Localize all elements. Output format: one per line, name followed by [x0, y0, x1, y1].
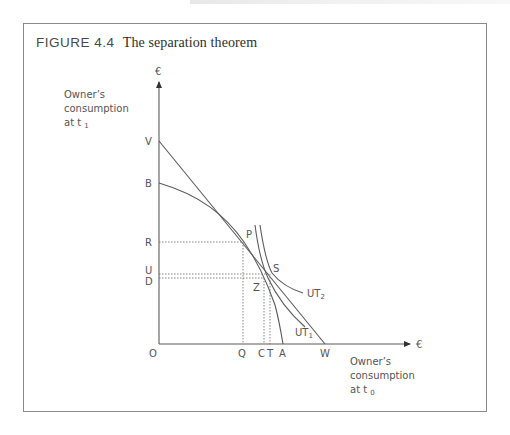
label-a: A [279, 348, 286, 359]
x-axis-title-line1: Owner’s [350, 356, 391, 367]
label-s: S [273, 263, 279, 274]
y-axis-title-subscript: 1 [84, 122, 88, 130]
label-t: T [266, 348, 274, 359]
y-axis-title-line1: Owner’s [64, 89, 105, 100]
label-ut2: UT2 [307, 288, 325, 301]
y-axis-unit: € [155, 66, 161, 77]
separation-theorem-diagram: € € Owner’s consumption at t 1 Owner’s c… [0, 0, 510, 435]
label-ut1-subscript: 1 [308, 332, 312, 340]
label-c: C [258, 348, 265, 359]
x-axis-unit: € [416, 339, 422, 350]
x-axis-title-line3: at t [350, 384, 367, 395]
x-axis-title-line2: consumption [350, 370, 415, 381]
label-d: D [145, 276, 153, 287]
y-axis-title: Owner’s consumption at t 1 [64, 89, 132, 130]
origin-label: O [149, 348, 157, 359]
label-ut1-text: UT [295, 327, 309, 338]
label-ut1: UT1 [295, 327, 313, 340]
label-w: W [320, 348, 330, 359]
label-p: P [246, 229, 252, 240]
label-z: Z [253, 282, 260, 293]
label-v: V [145, 136, 152, 147]
label-ut2-subscript: 2 [320, 293, 324, 301]
capital-market-line [159, 141, 325, 344]
y-axis-title-line3: at t [64, 117, 81, 128]
x-axis-title-subscript: 0 [370, 389, 374, 397]
label-b: B [145, 178, 152, 189]
investment-opportunities-curve [159, 183, 283, 344]
label-r: R [145, 237, 152, 248]
y-axis-title-line2: consumption [64, 103, 129, 114]
x-axis-title: Owner’s consumption at t 0 [350, 356, 418, 397]
label-ut2-text: UT [307, 288, 321, 299]
label-q: Q [238, 348, 246, 359]
label-u: U [145, 265, 152, 276]
